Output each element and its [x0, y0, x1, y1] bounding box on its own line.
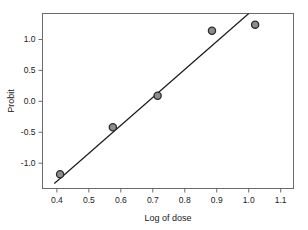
data-point-2 [154, 92, 161, 99]
y-tick-label-0.5: 0.5 [24, 65, 36, 75]
y-axis-title: Probit [6, 89, 16, 113]
data-point-3 [208, 27, 215, 34]
x-tick-label-0.8: 0.8 [179, 195, 191, 205]
x-tick-label-0.7: 0.7 [147, 195, 159, 205]
x-tick-label-1.0: 1.0 [243, 195, 255, 205]
x-axis-title: Log of dose [144, 213, 191, 223]
data-point-1 [109, 124, 116, 131]
y-tick-label--0.5: -0.5 [21, 127, 36, 137]
data-point-0 [56, 171, 63, 178]
probit-scatter-chart: 0.40.50.60.70.80.91.01.1 1.00.50.0-0.5-1… [0, 0, 308, 230]
y-tick-label-0.0: 0.0 [24, 96, 36, 106]
x-tick-label-0.5: 0.5 [83, 195, 95, 205]
x-tick-label-0.9: 0.9 [211, 195, 223, 205]
x-tick-label-1.1: 1.1 [275, 195, 287, 205]
x-tick-label-0.6: 0.6 [115, 195, 127, 205]
y-tick-label--1.0: -1.0 [21, 158, 36, 168]
data-point-4 [252, 21, 259, 28]
y-tick-label-1.0: 1.0 [24, 34, 36, 44]
x-tick-label-0.4: 0.4 [51, 195, 63, 205]
chart-canvas: 0.40.50.60.70.80.91.01.1 1.00.50.0-0.5-1… [0, 0, 308, 230]
